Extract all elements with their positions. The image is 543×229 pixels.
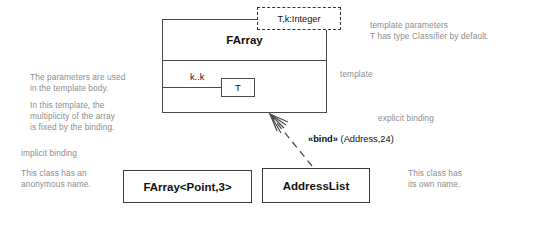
parameter-type-box-t[interactable]: T bbox=[221, 78, 255, 97]
multiplicity-label: k..k bbox=[190, 72, 204, 82]
annotation-parameters-used: The parameters are used in the template … bbox=[30, 72, 155, 94]
class-name-label: FArray bbox=[226, 34, 262, 46]
annotation-explicit-binding: explicit binding bbox=[378, 113, 498, 124]
bound-class-farray-point-3[interactable]: FArray<Point,3> bbox=[123, 170, 252, 203]
bound-class-label: FArray<Point,3> bbox=[143, 181, 231, 193]
annotation-template: template bbox=[340, 69, 420, 80]
bind-stereotype-label: «bind» (Address,24) bbox=[308, 134, 394, 144]
template-parameter-label: T,k:Integer bbox=[278, 14, 321, 24]
dependency-dashed-line bbox=[272, 117, 312, 166]
annotation-own-name: This class has its own name. bbox=[408, 168, 528, 190]
template-class-farray[interactable]: FArray bbox=[162, 19, 327, 113]
bind-stereotype-text: «bind» bbox=[308, 134, 338, 144]
uml-template-binding-diagram: FArray T,k:Integer k..k T FArray<Point,3… bbox=[0, 0, 543, 229]
annotation-multiplicity-fixed: In this template, the multiplicity of th… bbox=[30, 100, 155, 133]
class-compartment-divider bbox=[163, 60, 326, 61]
annotation-implicit-binding: implicit binding bbox=[21, 148, 141, 159]
parameter-type-label: T bbox=[235, 82, 241, 93]
dependency-arrowhead bbox=[270, 114, 288, 133]
annotation-anonymous-name: This class has an anonymous name. bbox=[21, 168, 139, 190]
bound-class-addresslist[interactable]: AddressList bbox=[262, 168, 370, 203]
template-parameter-box[interactable]: T,k:Integer bbox=[257, 7, 341, 30]
bound-class-label: AddressList bbox=[283, 180, 349, 192]
bind-arguments-text: (Address,24) bbox=[338, 134, 394, 144]
body-association-line bbox=[163, 87, 222, 88]
annotation-template-parameters: template parameters T has type Classifie… bbox=[370, 20, 540, 42]
